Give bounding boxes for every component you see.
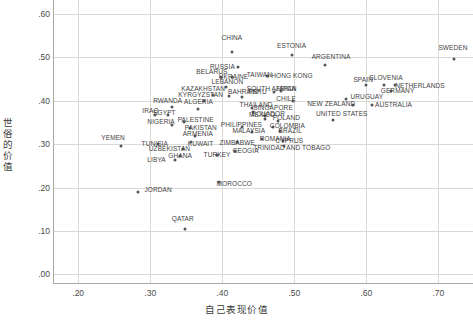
data-point [291,54,294,57]
data-point-label: SPAIN [353,76,373,83]
data-point-label: HONG KONG [271,72,312,79]
scatter-chart: CHINAESTONIASWEDENARGENTINARUSSIATAIWANH… [0,0,473,321]
data-point-label: THAILAND [240,101,273,108]
data-point-label: IRAQ [142,107,158,114]
data-point-label: ARGENTINA [312,53,351,60]
gridline-vertical [438,0,439,283]
data-point-label: TRINIDAD AND TOBAGO [253,144,330,151]
data-point-label: GEOGIA [232,147,258,154]
data-point [332,118,335,121]
data-point-label: LIBYA [147,156,165,163]
data-point-label: TURKEY [204,151,231,158]
gridline-vertical [366,0,367,283]
y-tick-label: .20 [28,183,50,193]
plot-area: CHINAESTONIASWEDENARGENTINARUSSIATAIWANH… [53,0,473,283]
data-point-label: QATAR [172,215,194,222]
data-point [196,108,199,111]
data-point-label: GERMANY [381,87,415,94]
data-point-label: MOROCCO [217,180,252,187]
data-point [119,145,122,148]
data-point [267,74,270,77]
y-axis-title: 世俗的价值 [2,117,14,172]
data-point-label: LEBANON [211,78,243,85]
data-point [383,83,386,86]
gridline-horizontal [53,188,473,189]
y-axis-line [53,0,54,283]
gridline-horizontal [53,14,473,15]
data-point-label: YEMEN [101,134,125,141]
data-point [453,57,456,60]
x-tick-label: .30 [135,288,165,298]
data-point-label: SWEDEN [438,44,467,51]
data-point-label: UZBEKISTAN [149,145,190,152]
y-axis-title-char: 的 [2,139,14,150]
x-tick-label: .70 [423,288,453,298]
data-point-label: CHILE [276,95,296,102]
data-point-label: URUGUAY [351,93,384,100]
data-point-label: NIGERIA [147,118,174,125]
y-tick-label: .30 [28,139,50,149]
y-tick-label: .00 [28,269,50,279]
data-point-label: ZIMBABWE [219,139,254,146]
data-point-label: AUSTRALIA [375,101,412,108]
x-tick-label: .40 [207,288,237,298]
gridline-horizontal [53,231,473,232]
data-point-label: CHINA [222,34,243,41]
data-point [324,64,327,67]
y-tick-label: .50 [28,52,50,62]
data-point [227,95,230,98]
y-axis-title-char: 值 [2,161,14,172]
data-point-label: NEW ZEALAND [307,100,355,107]
data-point-label: KUWAIT [188,140,214,147]
data-point-label: ESTONIA [277,42,306,49]
data-point [137,190,140,193]
data-point-label: KYRGYZSTAN [178,91,223,98]
y-tick-label: .40 [28,96,50,106]
data-point-label: ARMENIA [183,130,213,137]
gridline-vertical [78,0,79,283]
x-tick-label: .50 [279,288,309,298]
data-point [365,84,368,87]
data-point-label: POLAND [273,114,300,121]
data-point-label: JORDAN [144,186,171,193]
data-point-label: GHANA [168,152,192,159]
data-point [263,118,266,121]
y-tick-label: .60 [28,9,50,19]
data-point [183,228,186,231]
data-point-label: PERU [248,88,266,95]
data-point [237,66,240,69]
gridline-horizontal [53,274,473,275]
y-tick-label: .10 [28,226,50,236]
data-point-label: ALGERIA [184,98,213,105]
data-point-label: RWANDA [153,97,182,104]
data-point-label: MALAYSIA [232,127,265,134]
x-axis-line [53,283,473,284]
x-tick-label: .60 [351,288,381,298]
gridline-horizontal [53,57,473,58]
data-point-label: BRAZIL [278,127,301,134]
data-point-label: PALESTINE [178,116,214,123]
data-point [230,51,233,54]
y-axis-title-char: 世 [2,117,14,128]
data-point-label: UNITED STATES [316,110,368,117]
x-tick-label: .20 [63,288,93,298]
data-point-label: BELARUS [196,68,227,75]
data-point [174,159,177,162]
data-point [371,104,374,107]
data-point-label: SLOVENIA [369,74,402,81]
data-point-label: CYPRUS [276,137,304,144]
x-axis-title: 自己表现价值 [0,302,473,316]
y-axis-title-char: 价 [2,150,14,161]
data-point [241,96,244,99]
y-axis-title-char: 俗 [2,128,14,139]
